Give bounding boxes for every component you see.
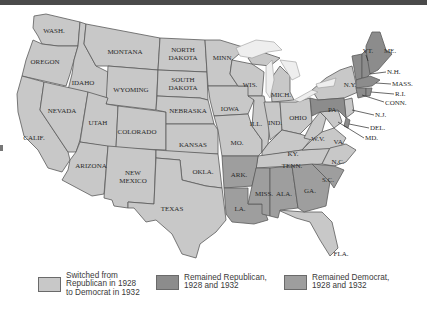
label-new-mexico-2: MEXICO [119,177,147,185]
label-nc: N.C. [331,158,344,166]
label-wis: WIS. [243,81,258,89]
label-ind: IND. [268,119,282,127]
label-south-dakota-2: DAKOTA [169,84,198,92]
state-montana [84,24,160,70]
label-me: ME. [384,47,397,55]
label-md: MD. [365,134,378,142]
label-ala: ALA. [276,190,292,198]
label-tenn: TENN. [282,162,303,170]
label-south-dakota-1: SOUTH [171,76,194,84]
legend-swatch-switched [38,277,61,292]
label-ga: GA. [304,187,316,195]
label-nevada: NEVADA [48,107,77,115]
label-pa: PA. [328,106,338,114]
label-ark: ARK. [231,171,248,179]
label-mo: MO. [230,139,243,147]
label-mass: MASS. [392,80,413,88]
label-va: VA. [334,138,345,146]
label-colorado: COLORADO [118,128,157,136]
label-conn: CONN. [385,99,407,107]
label-nj: N.J. [375,111,387,119]
state-fla [278,210,338,256]
lake-superior [236,40,282,58]
label-oregon: OREGON [30,58,59,66]
us-election-map: WASH. OREGON CALIF. IDAHO NEVADA MONTANA… [0,0,427,262]
legend-item-remained-republican: Remained Republican, 1928 and 1932 [156,274,267,291]
label-north-dakota-2: DAKOTA [169,54,198,62]
label-ill: ILL. [250,120,263,128]
label-ohio: OHIO [289,114,307,122]
legend-label-democrat: Remained Democrat, 1928 and 1932 [312,274,389,291]
label-ny: N.Y. [344,81,357,89]
label-kansas: KANSAS [179,141,207,149]
legend-label-switched: Switched from Republican in 1928 to Demo… [66,272,140,297]
label-utah: UTAH [89,119,108,127]
legend-swatch-democrat [284,275,307,290]
legend-swatch-republican [156,275,179,290]
label-mich: MICH. [271,91,291,99]
legend-item-remained-democrat: Remained Democrat, 1928 and 1932 [284,274,389,291]
label-new-mexico-1: NEW [125,169,141,177]
legend-item-switched: Switched from Republican in 1928 to Demo… [38,272,140,297]
label-calif: CALIF. [23,134,45,142]
state-kansas [166,124,218,154]
label-wv: W.V. [311,135,325,143]
label-okla: OKLA. [192,168,213,176]
label-ky: KY. [288,150,299,158]
label-del: DEL. [370,124,386,132]
label-wyoming: WYOMING [113,86,148,94]
label-vt: VT. [363,47,374,55]
label-la: LA. [234,205,245,213]
label-sc: S.C. [322,176,334,184]
label-montana: MONTANA [107,48,142,56]
label-miss: MISS. [255,190,273,198]
label-fla: FLA. [334,250,349,258]
label-ri: R.I. [395,90,406,98]
map-legend: Switched from Republican in 1928 to Demo… [0,272,427,306]
label-arizona: ARIZONA [75,162,107,170]
label-wash: WASH. [43,27,65,35]
state-conn [356,88,366,98]
label-texas: TEXAS [161,205,184,213]
legend-label-republican: Remained Republican, 1928 and 1932 [184,274,267,291]
label-minn: MINN. [213,54,234,62]
label-north-dakota-1: NORTH [171,46,195,54]
label-idaho: IDAHO [72,79,95,87]
label-nh: N.H. [387,68,401,76]
label-iowa: IOWA [221,105,239,113]
label-nebraska: NEBRASKA [169,107,207,115]
